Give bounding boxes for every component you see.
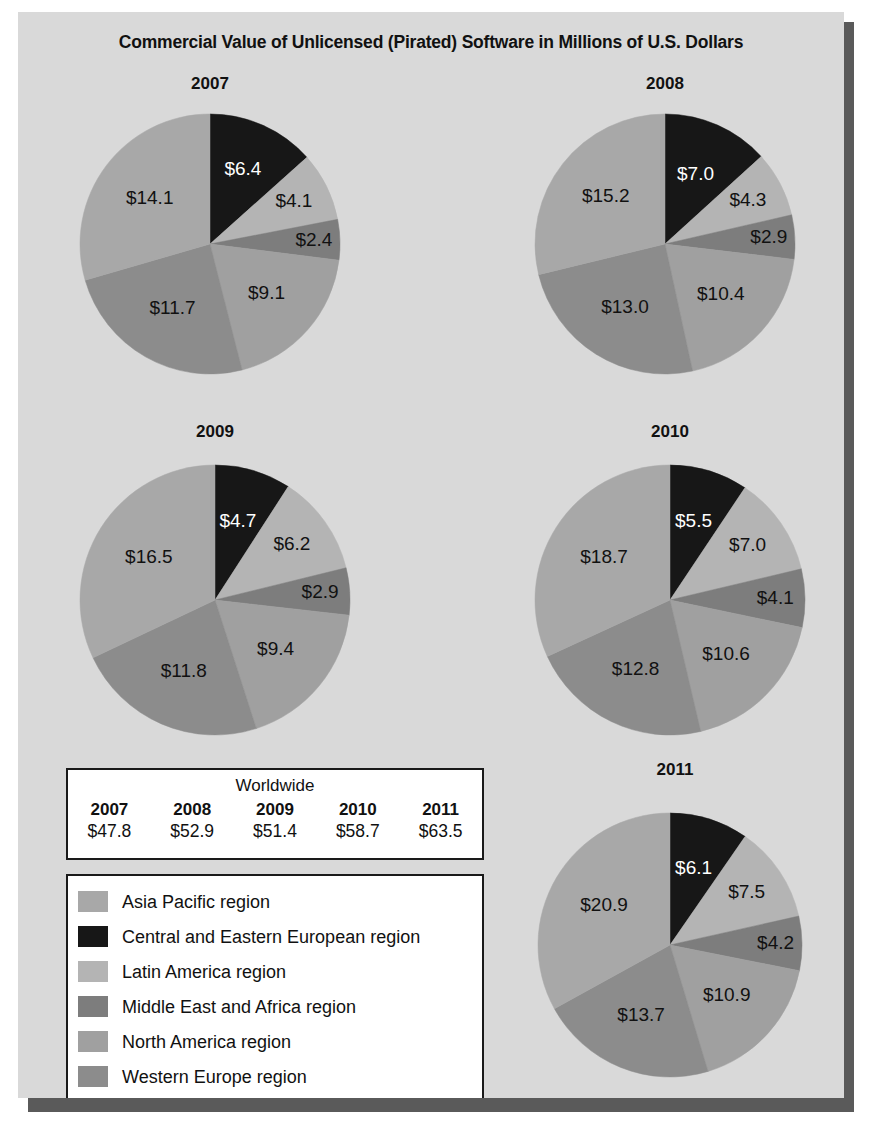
pie-slice-label-2007-3: $9.1 bbox=[248, 282, 285, 303]
pie-slice-label-2008-1: $4.3 bbox=[729, 189, 766, 210]
pie-slice-label-2008-4: $13.0 bbox=[601, 296, 649, 317]
pie-chart-2011: 2011$6.1$7.5$4.2$10.9$13.7$20.9 bbox=[515, 760, 835, 1098]
pie-slice-label-2010-1: $7.0 bbox=[729, 534, 766, 555]
pie-slice-label-2011-1: $7.5 bbox=[728, 881, 765, 902]
pie-slice-label-2010-2: $4.1 bbox=[757, 587, 794, 608]
legend-label-middle_east_africa: Middle East and Africa region bbox=[122, 998, 356, 1016]
worldwide-totals-box: Worldwide 2007 2008 2009 2010 2011 $47.8… bbox=[66, 768, 484, 860]
pie-slice-label-2011-0: $6.1 bbox=[675, 857, 712, 878]
legend-item-middle_east_africa: Middle East and Africa region bbox=[68, 989, 482, 1024]
pie-slice-label-2008-3: $10.4 bbox=[697, 283, 745, 304]
worldwide-value-2009: $51.4 bbox=[234, 820, 317, 844]
worldwide-header-row: 2007 2008 2009 2010 2011 bbox=[68, 799, 482, 820]
legend-swatch-asia_pacific bbox=[78, 891, 108, 912]
pie-svg-2007: $6.4$4.1$2.4$9.1$11.7$14.1 bbox=[60, 74, 360, 404]
pie-slice-label-2007-2: $2.4 bbox=[295, 229, 332, 250]
worldwide-value-2007: $47.8 bbox=[68, 820, 151, 844]
legend-item-western_europe: Western Europe region bbox=[68, 1059, 482, 1094]
pie-slice-label-2007-4: $11.7 bbox=[150, 297, 196, 318]
pie-slice-label-2009-1: $6.2 bbox=[273, 533, 310, 554]
pie-svg-2010: $5.5$7.0$4.1$10.6$12.8$18.7 bbox=[515, 422, 825, 762]
pie-chart-2007: 2007$6.4$4.1$2.4$9.1$11.7$14.1 bbox=[60, 74, 360, 404]
pie-slice-label-2007-5: $14.1 bbox=[126, 187, 174, 208]
legend-label-western_europe: Western Europe region bbox=[122, 1068, 307, 1086]
worldwide-header-2011: 2011 bbox=[399, 799, 482, 820]
pie-slice-label-2009-4: $11.8 bbox=[161, 660, 207, 681]
legend-label-north_america: North America region bbox=[122, 1033, 291, 1051]
pie-slice-label-2010-0: $5.5 bbox=[675, 510, 712, 531]
worldwide-header-2007: 2007 bbox=[68, 799, 151, 820]
region-legend: Asia Pacific regionCentral and Eastern E… bbox=[66, 874, 484, 1098]
pie-svg-2011: $6.1$7.5$4.2$10.9$13.7$20.9 bbox=[515, 760, 835, 1098]
pie-chart-2009: 2009$4.7$6.2$2.9$9.4$11.8$16.5 bbox=[60, 422, 370, 762]
chart-page: Commercial Value of Unlicensed (Pirated)… bbox=[0, 0, 874, 1136]
worldwide-header-2010: 2010 bbox=[316, 799, 399, 820]
pie-slice-label-2011-4: $13.7 bbox=[617, 1004, 665, 1025]
pie-slice-label-2007-1: $4.1 bbox=[275, 190, 312, 211]
pie-slice-label-2009-0: $4.7 bbox=[219, 510, 256, 531]
pie-slice-label-2010-4: $12.8 bbox=[612, 658, 660, 679]
pie-slice-label-2011-3: $10.9 bbox=[703, 984, 751, 1005]
pie-slice-label-2008-5: $15.2 bbox=[582, 185, 630, 206]
pie-svg-2008: $7.0$4.3$2.9$10.4$13.0$15.2 bbox=[515, 74, 815, 404]
pie-svg-2009: $4.7$6.2$2.9$9.4$11.8$16.5 bbox=[60, 422, 370, 762]
chart-panel: Commercial Value of Unlicensed (Pirated)… bbox=[18, 12, 844, 1098]
pie-slice-label-2011-2: $4.2 bbox=[757, 932, 794, 953]
worldwide-header-2008: 2008 bbox=[151, 799, 234, 820]
legend-label-central_eastern_europe: Central and Eastern European region bbox=[122, 928, 420, 946]
legend-swatch-western_europe bbox=[78, 1066, 108, 1087]
pie-slice-label-2009-5: $16.5 bbox=[125, 546, 173, 567]
worldwide-value-2011: $63.5 bbox=[399, 820, 482, 844]
worldwide-value-2010: $58.7 bbox=[316, 820, 399, 844]
legend-item-central_eastern_europe: Central and Eastern European region bbox=[68, 919, 482, 954]
worldwide-header-2009: 2009 bbox=[234, 799, 317, 820]
legend-swatch-middle_east_africa bbox=[78, 996, 108, 1017]
pie-slice-label-2009-2: $2.9 bbox=[302, 581, 339, 602]
legend-swatch-central_eastern_europe bbox=[78, 926, 108, 947]
worldwide-table: 2007 2008 2009 2010 2011 $47.8 $52.9 $51… bbox=[68, 799, 482, 844]
pie-slice-label-2010-3: $10.6 bbox=[702, 643, 750, 664]
page-title: Commercial Value of Unlicensed (Pirated)… bbox=[18, 32, 844, 53]
legend-item-latin_america: Latin America region bbox=[68, 954, 482, 989]
pie-slice-label-2010-5: $18.7 bbox=[580, 546, 628, 567]
pie-slice-label-2008-0: $7.0 bbox=[677, 163, 714, 184]
pie-slice-label-2007-0: $6.4 bbox=[224, 158, 261, 179]
legend-label-asia_pacific: Asia Pacific region bbox=[122, 893, 270, 911]
legend-item-asia_pacific: Asia Pacific region bbox=[68, 884, 482, 919]
pie-slice-label-2011-5: $20.9 bbox=[580, 894, 628, 915]
pie-chart-2010: 2010$5.5$7.0$4.1$10.6$12.8$18.7 bbox=[515, 422, 825, 762]
legend-item-north_america: North America region bbox=[68, 1024, 482, 1059]
pie-chart-2008: 2008$7.0$4.3$2.9$10.4$13.0$15.2 bbox=[515, 74, 815, 404]
worldwide-value-row: $47.8 $52.9 $51.4 $58.7 $63.5 bbox=[68, 820, 482, 844]
pie-slice-label-2009-3: $9.4 bbox=[257, 638, 294, 659]
worldwide-caption: Worldwide bbox=[68, 776, 482, 796]
legend-label-latin_america: Latin America region bbox=[122, 963, 286, 981]
legend-swatch-north_america bbox=[78, 1031, 108, 1052]
pie-slice-label-2008-2: $2.9 bbox=[750, 226, 787, 247]
legend-swatch-latin_america bbox=[78, 961, 108, 982]
worldwide-value-2008: $52.9 bbox=[151, 820, 234, 844]
